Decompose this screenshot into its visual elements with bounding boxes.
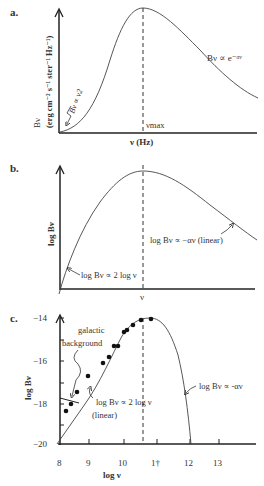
- panel-a-letter: a.: [10, 6, 19, 18]
- panel-c-galactic-background-line: [60, 398, 79, 403]
- panel-a-high-annotation: Bν ∝ e⁻ᵅᵛ: [207, 53, 242, 63]
- panel-a-ylabel-main: Bν: [32, 118, 42, 128]
- xtick-label: 1†: [151, 458, 161, 468]
- panel-a-ylabel-units: (erg cm⁻² s⁻¹ ster⁻¹ Hz⁻¹): [44, 36, 54, 128]
- ytick-label: −20: [33, 439, 48, 449]
- panel-c-curve: [57, 318, 191, 444]
- panel-a-peak-label: νmax: [146, 120, 165, 130]
- ytick-label: −18: [33, 399, 48, 409]
- ytick-label: −16: [33, 356, 48, 366]
- panel-b-xlabel: ν: [140, 292, 144, 302]
- panel-a-curve: [60, 8, 258, 132]
- xtick-label: 10: [118, 458, 128, 468]
- xtick-label: 9: [86, 458, 91, 468]
- panel-a-low-annotation: Bν ∝ ν2: [67, 88, 84, 115]
- panel-a: a. Bν (erg cm⁻² s⁻¹ ster⁻¹ Hz⁻¹) Bν ∝ ν2…: [10, 6, 258, 147]
- panel-c: c. −14 −16 −18 −20 8 9 10 1†: [10, 312, 256, 480]
- panel-c-xlabel: log ν: [103, 470, 121, 480]
- panel-b-ylabel: log Bν: [46, 222, 56, 246]
- xtick-label: 8: [57, 458, 62, 468]
- panel-c-galactic-label-1: galactic: [78, 325, 105, 335]
- panel-b-high-annotation: log Bν ∝ −αν (linear): [150, 235, 223, 245]
- panel-c-galactic-label-2: background: [62, 338, 103, 348]
- panel-c-low-annotation-1: log Bν ∝ 2 log ν: [96, 397, 152, 407]
- panel-b-high-pointer-icon: [221, 225, 232, 234]
- panel-b-low-annotation: log Bν ∝ 2 log ν: [81, 270, 137, 280]
- panel-c-high-annotation: log Bν ∝ -αν: [199, 381, 243, 391]
- xtick-label: 13: [213, 458, 223, 468]
- panel-b: b. log Bν ν log Bν ∝ 2 log ν log Bν ∝ −α…: [10, 162, 257, 302]
- panel-c-letter: c.: [10, 312, 18, 324]
- panel-c-galactic-pointer-icon: [72, 350, 81, 396]
- panel-c-ylabel: log Bν: [23, 376, 33, 400]
- panel-c-high-pointer-icon: [186, 386, 196, 393]
- panel-b-low-pointer-icon: [69, 269, 80, 275]
- figure: a. Bν (erg cm⁻² s⁻¹ ster⁻¹ Hz⁻¹) Bν ∝ ν2…: [0, 0, 264, 486]
- ytick-label: −14: [33, 313, 48, 323]
- panel-b-letter: b.: [10, 162, 19, 174]
- panel-a-xlabel: ν (Hz): [129, 137, 153, 147]
- xtick-label: 12: [184, 458, 193, 468]
- panel-c-low-annotation-2: (linear): [92, 410, 117, 420]
